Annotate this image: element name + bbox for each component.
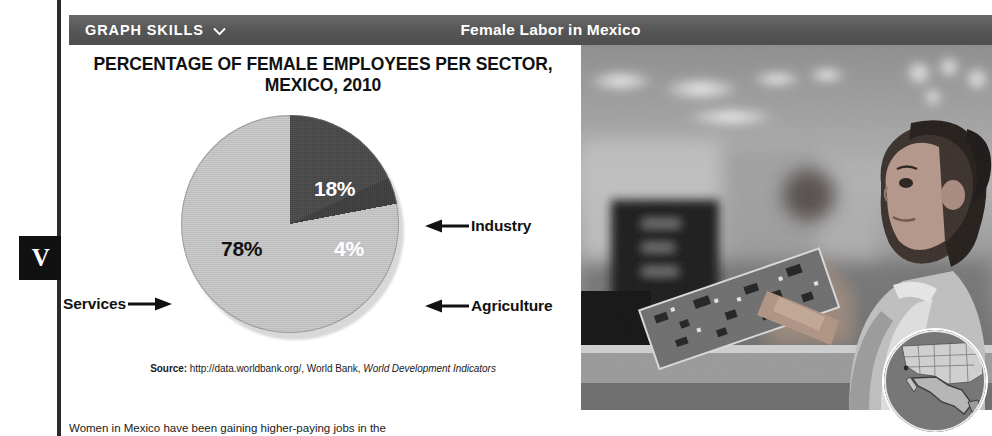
arrow-left-icon [423, 298, 471, 314]
source-url[interactable]: http://data.worldbank.org/, [190, 363, 304, 374]
callout-agriculture-label: Agriculture [471, 297, 553, 315]
chart-panel: PERCENTAGE OF FEMALE EMPLOYEES PER SECTO… [61, 45, 581, 410]
chapter-tab-label: V [32, 244, 51, 272]
callout-agriculture: Agriculture [423, 297, 553, 315]
source-org: World Bank, [307, 363, 361, 374]
pie-value-industry: 18% [314, 177, 355, 201]
callout-services-label: Services [63, 295, 126, 313]
chevron-down-icon [213, 25, 226, 38]
graph-skills-eyebrow[interactable]: GRAPH SKILLS [85, 15, 226, 45]
figure-page: V Female Labor in Mexico GRAPH SKILLS PE… [0, 0, 992, 436]
callout-industry: Industry [423, 217, 531, 235]
chart-title-line1: PERCENTAGE OF FEMALE EMPLOYEES PER SECTO… [75, 54, 571, 75]
arrow-left-icon [423, 218, 471, 234]
arrow-right-icon [126, 296, 174, 312]
chart-title: PERCENTAGE OF FEMALE EMPLOYEES PER SECTO… [75, 54, 571, 96]
pie-slices [181, 115, 399, 333]
graph-skills-label: GRAPH SKILLS [85, 22, 204, 38]
pie-value-services: 78% [221, 237, 262, 261]
pie-value-agriculture: 4% [334, 237, 364, 261]
source-label: Source: [150, 363, 187, 374]
inset-locator-map [884, 330, 986, 432]
source-publication: World Development Indicators [363, 363, 496, 374]
pie-texture-overlay [181, 115, 399, 333]
callout-industry-label: Industry [471, 217, 531, 235]
chart-source: Source: http://data.worldbank.org/, Worl… [75, 363, 571, 374]
chapter-tab: V [19, 236, 63, 280]
pie-chart: 78% 18% 4% [181, 115, 399, 333]
callout-services: Services [63, 295, 174, 313]
chart-title-line2: MEXICO, 2010 [75, 75, 571, 96]
figure-header-band: Female Labor in Mexico GRAPH SKILLS [69, 15, 992, 45]
figure-caption: Women in Mexico have been gaining higher… [69, 421, 969, 436]
